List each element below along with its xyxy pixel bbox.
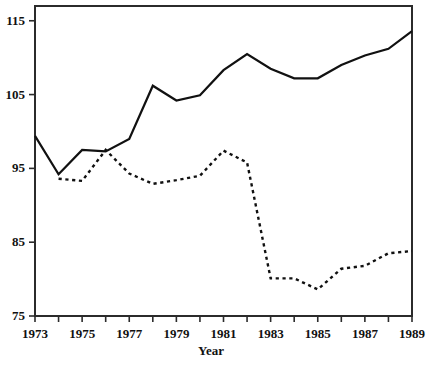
x-tick-label: 1983	[246, 327, 296, 340]
x-tick-label: 1977	[104, 327, 154, 340]
y-tick-label: 75	[0, 309, 25, 322]
x-tick-label: 1989	[387, 327, 430, 340]
plot-frame	[35, 6, 412, 316]
y-tick-label: 95	[0, 161, 25, 174]
x-tick-label: 1975	[57, 327, 107, 340]
x-axis-title: Year	[0, 344, 422, 357]
y-tick-label: 105	[0, 88, 25, 101]
x-tick-label: 1973	[10, 327, 60, 340]
x-tick-label: 1981	[199, 327, 249, 340]
y-tick-label: 85	[0, 235, 25, 248]
x-tick-label: 1979	[151, 327, 201, 340]
x-tick-label: 1985	[293, 327, 343, 340]
y-tick-label: 115	[0, 14, 25, 27]
x-tick-label: 1987	[340, 327, 390, 340]
